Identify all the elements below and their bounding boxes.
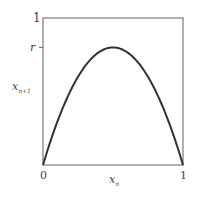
y-axis-label-sub: n+1: [18, 87, 31, 94]
logistic-curve: [43, 47, 183, 165]
x-axis-label: xn: [109, 173, 119, 187]
logistic-map-chart: 1 r xn+1 0 1 xn: [0, 0, 199, 200]
y-tick-1-label: 1: [33, 11, 41, 25]
x-tick-0-label: 0: [40, 169, 47, 182]
x-tick-1-label: 1: [180, 169, 187, 182]
y-tick-r-label: r: [30, 41, 36, 54]
y-axis-label: xn+1: [12, 80, 31, 94]
x-axis-label-sub: n: [115, 180, 119, 187]
plot-frame: [43, 18, 183, 165]
